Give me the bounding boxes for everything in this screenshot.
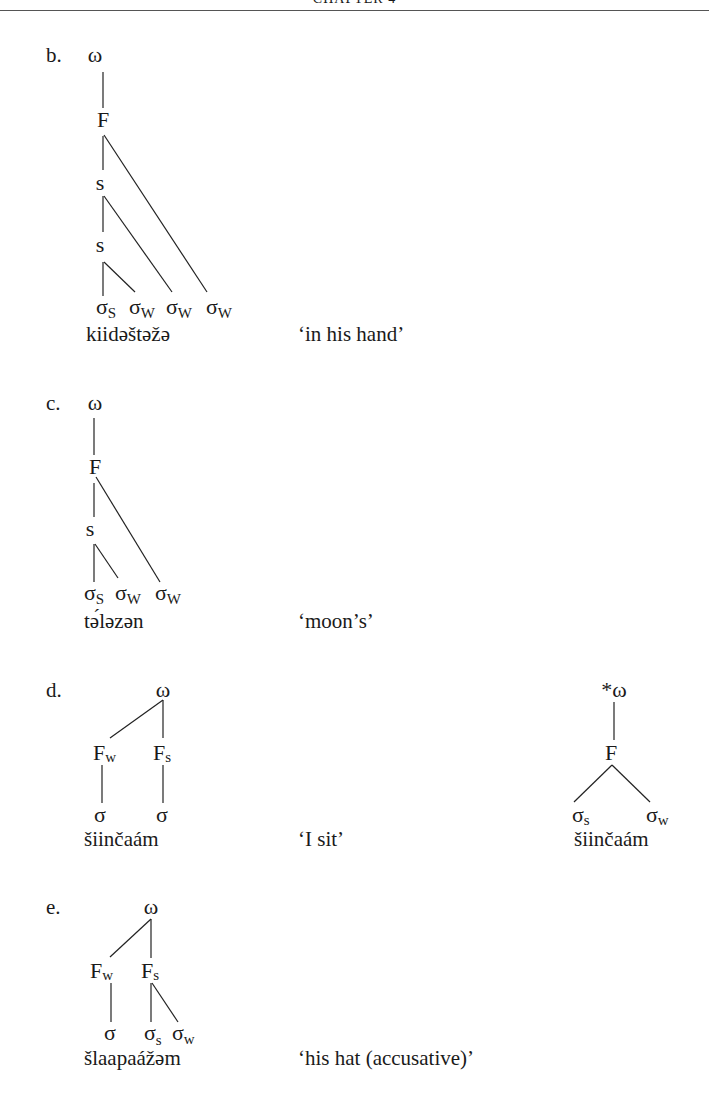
branch-line [104, 196, 172, 292]
branch-line [110, 700, 163, 738]
example-label: e. [46, 895, 61, 919]
branch-line [152, 983, 178, 1022]
syllable: σ [156, 802, 168, 827]
tree-node-foot: F [89, 454, 101, 479]
example-d: d. ω Fw Fs σ σ šiinčaám ‘I sit’ *ω F σs … [46, 677, 669, 851]
word-form: šiinčaám [84, 827, 159, 851]
word-form: kiidəštəžə [86, 322, 170, 346]
tree-node-starred-omega: *ω [601, 677, 626, 702]
syllable: σ [94, 802, 106, 827]
branch-line [95, 544, 118, 578]
syllable: σ [104, 1020, 116, 1045]
gloss: ‘moon’s’ [298, 609, 374, 633]
tree-node-foot: F [605, 740, 617, 765]
syllable: σW [166, 294, 193, 321]
foot-node: Fs [141, 958, 159, 983]
example-label: d. [46, 678, 62, 702]
branch-line [96, 477, 160, 582]
tree-node-s: s [96, 170, 105, 195]
tree-node-s: s [86, 516, 95, 541]
example-c: c. ω F s σS σW σW tə́ləzən ‘moon’s’ [46, 390, 374, 633]
word-form: šiinčaám [574, 827, 649, 851]
syllable: σS [96, 294, 116, 321]
example-label: c. [46, 391, 61, 415]
tree-node-omega: ω [88, 42, 102, 67]
syllable: σS [84, 580, 104, 607]
branch-line [574, 765, 612, 802]
foot-node: Fw [93, 740, 116, 765]
foot-node: Fs [153, 740, 171, 765]
word-form: tə́ləzən [84, 609, 144, 633]
syllable: σW [155, 580, 182, 607]
tree-node-s: s [96, 232, 105, 257]
example-b: b. ω F s s σS σW σW σW kiidəštəžə ‘in hi… [46, 42, 404, 346]
gloss: ‘I sit’ [298, 827, 344, 851]
example-label: b. [46, 43, 62, 67]
tree-node-omega: ω [144, 894, 158, 919]
syllable: σs [572, 802, 590, 828]
gloss: ‘in his hand’ [298, 322, 404, 346]
tree-node-omega: ω [156, 677, 170, 702]
branch-line [104, 262, 135, 292]
word-form: šlaapaážəm [84, 1046, 181, 1070]
syllable: σW [206, 294, 233, 321]
branch-line [612, 765, 650, 802]
foot-node: Fw [90, 958, 113, 983]
syllable: σs [144, 1020, 162, 1048]
syllable: σw [646, 802, 669, 828]
example-e: e. ω Fw Fs σ σs σw šlaapaážəm ‘his hat (… [46, 894, 474, 1070]
syllable: σW [115, 580, 142, 607]
ungrammatical-tree: *ω F σs σw šiinčaám [572, 677, 669, 851]
tree-diagrams: b. ω F s s σS σW σW σW kiidəštəžə ‘in hi… [0, 0, 709, 1110]
gloss: ‘his hat (accusative)’ [298, 1046, 474, 1070]
branch-line [110, 919, 151, 957]
syllable: σW [129, 294, 156, 321]
tree-node-omega: ω [88, 390, 102, 415]
syllable: σw [172, 1020, 195, 1047]
tree-node-foot: F [97, 107, 109, 132]
